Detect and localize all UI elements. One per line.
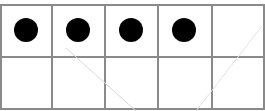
ten-frame-cell <box>211 4 263 56</box>
ten-frame-cell <box>104 4 157 56</box>
ten-frame-cell <box>51 56 104 108</box>
ten-frame-cell <box>211 56 263 108</box>
ten-frame-cell <box>157 4 211 56</box>
grid-line-col-5 <box>263 4 265 109</box>
counter-dot <box>14 18 38 42</box>
ten-frame-cell <box>157 56 211 108</box>
ten-frame-cell <box>104 56 157 108</box>
grid-line-bottom <box>0 108 265 110</box>
ten-frame-cell <box>0 4 51 56</box>
ten-frame-cell <box>0 56 51 108</box>
counter-dot <box>172 18 196 42</box>
ten-frame-cell <box>51 4 104 56</box>
counter-dot <box>119 18 143 42</box>
counter-dot <box>66 18 90 42</box>
